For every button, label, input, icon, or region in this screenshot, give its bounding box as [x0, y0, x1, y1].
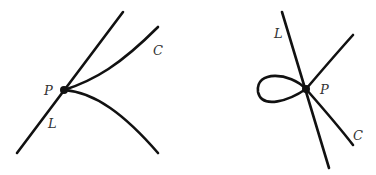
right-point-P [302, 85, 310, 93]
right-label-P: P [319, 82, 329, 97]
right-label-L: L [273, 26, 283, 41]
left-curve-C-lower-branch [64, 90, 158, 153]
left-point-P [60, 86, 68, 94]
left-label-C: C [153, 43, 163, 58]
left-label-L: L [47, 116, 57, 131]
diagram-canvas: P L C P L C [0, 0, 376, 175]
right-label-C: C [353, 128, 363, 143]
left-curve-C-upper-branch [64, 27, 158, 90]
left-figure [17, 12, 158, 153]
left-label-P: P [43, 83, 53, 98]
left-line-L [17, 12, 123, 153]
